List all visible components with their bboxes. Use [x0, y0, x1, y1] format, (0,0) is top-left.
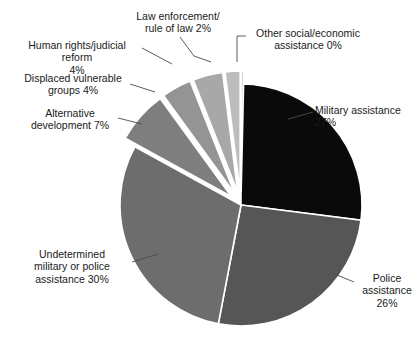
slice-label-undetermined-military-or-police-assistance: Undetermined military or police assistan…	[14, 248, 130, 285]
slice-label-human-rights-judicial-reform: Human rights/judicial reform 4%	[12, 39, 142, 76]
pie-slice	[218, 205, 361, 326]
leader-line	[142, 48, 172, 64]
leader-line	[130, 84, 155, 92]
slice-label-alternative-development: Alternative development 7%	[18, 107, 122, 132]
slice-label-police-assistance: Police assistance 26%	[356, 272, 418, 309]
slice-label-military-assistance: Military assistance 27%	[315, 104, 419, 129]
pie-chart-figure: Military assistance 27% Police assistanc…	[0, 0, 420, 339]
slice-label-other-social-economic-assistance: Other social/economic assistance 0%	[243, 27, 373, 52]
slice-label-law-enforcement-rule-of-law: Law enforcement/ rule of law 2%	[129, 10, 227, 35]
leader-line	[180, 37, 211, 62]
